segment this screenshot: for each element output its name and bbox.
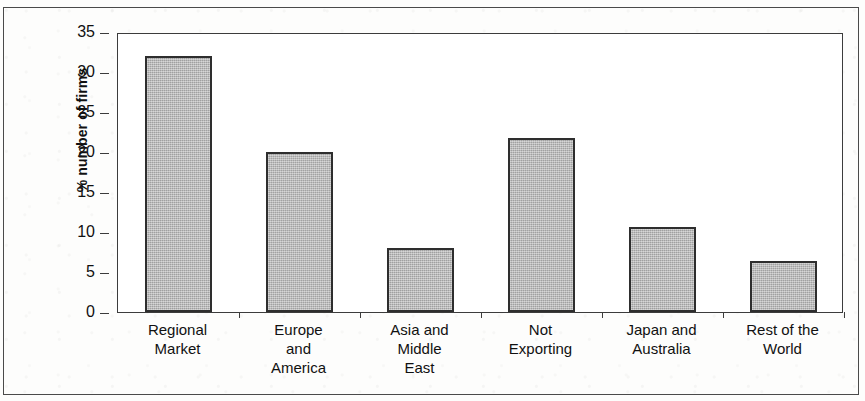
y-axis-tick-label: 10 — [35, 223, 95, 241]
x-axis-category-label-line: Not — [480, 320, 601, 339]
bar-chart-figure: % number of firms 35302520151050 Regiona… — [0, 0, 865, 401]
y-axis-tick: 0 — [0, 313, 117, 314]
y-axis-tick-label: 5 — [35, 263, 95, 281]
y-axis-tick-label: 25 — [35, 103, 95, 121]
bar[interactable] — [508, 138, 575, 312]
x-axis-tick-mark — [360, 312, 361, 318]
x-axis-tick-mark — [239, 312, 240, 318]
x-axis-category-label: Rest of theWorld — [722, 320, 843, 358]
x-axis-category-label: Japan andAustralia — [601, 320, 722, 358]
x-axis-category-label: RegionalMarket — [117, 320, 238, 358]
x-axis-tick-mark — [602, 312, 603, 318]
x-axis-tick-mark — [481, 312, 482, 318]
y-axis-tick-label: 15 — [35, 183, 95, 201]
x-axis-category-label-line: Europe — [238, 320, 359, 339]
y-axis-tick-label: 0 — [35, 303, 95, 321]
y-axis-tick-label: 35 — [35, 23, 95, 41]
x-axis-category-label-line: Australia — [601, 339, 722, 358]
y-axis-tick-mark — [100, 233, 109, 234]
plot-area — [117, 33, 843, 313]
y-axis-tick: 5 — [0, 273, 117, 274]
y-axis-tick: 35 — [0, 33, 117, 34]
bar[interactable] — [145, 56, 212, 312]
x-axis-category-label-line: Market — [117, 339, 238, 358]
y-axis-tick: 30 — [0, 73, 117, 74]
x-axis-category-label-line: Exporting — [480, 339, 601, 358]
x-axis-category-label-line: Middle — [359, 339, 480, 358]
y-axis-tick-label: 20 — [35, 143, 95, 161]
x-axis-category-label-line: America — [238, 358, 359, 377]
y-axis-tick: 25 — [0, 113, 117, 114]
bar[interactable] — [387, 248, 454, 312]
y-axis-tick-mark — [100, 273, 109, 274]
x-axis-tick-mark — [844, 312, 845, 318]
x-axis-category-label-line: Regional — [117, 320, 238, 339]
y-axis-tick-mark — [100, 73, 109, 74]
y-axis-tick-mark — [100, 153, 109, 154]
y-axis-tick-mark — [100, 193, 109, 194]
x-axis-category-label-line: Rest of the — [722, 320, 843, 339]
x-axis-tick-mark — [723, 312, 724, 318]
x-axis-category-label-line: and — [238, 339, 359, 358]
x-axis-category-label: Asia andMiddleEast — [359, 320, 480, 377]
bar[interactable] — [629, 227, 696, 312]
x-axis-category-label: EuropeandAmerica — [238, 320, 359, 377]
y-axis-tick-mark — [100, 113, 109, 114]
bar[interactable] — [266, 152, 333, 312]
y-axis-tick: 10 — [0, 233, 117, 234]
x-axis-category-label-line: Asia and — [359, 320, 480, 339]
y-axis-tick-mark — [100, 313, 109, 314]
x-axis-category-label: NotExporting — [480, 320, 601, 358]
bar[interactable] — [750, 261, 817, 312]
y-axis-tick-mark — [100, 33, 109, 34]
y-axis-tick-label: 30 — [35, 63, 95, 81]
y-axis-tick: 15 — [0, 193, 117, 194]
x-axis-category-label-line: World — [722, 339, 843, 358]
x-axis-category-label-line: Japan and — [601, 320, 722, 339]
y-axis-tick: 20 — [0, 153, 117, 154]
x-axis-category-label-line: East — [359, 358, 480, 377]
